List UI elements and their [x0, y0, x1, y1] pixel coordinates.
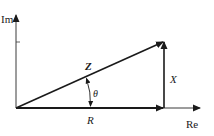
angle-label: θ [93, 88, 98, 99]
resistance-label: R [86, 114, 94, 126]
angle-arc [87, 79, 91, 107]
impedance-label: Z [84, 60, 92, 72]
impedance-vector [16, 42, 163, 108]
impedance-diagram: Im Re Z θ R X [0, 0, 214, 136]
imaginary-axis-label: Im [1, 13, 14, 25]
real-axis-label: Re [186, 118, 198, 130]
reactance-label: X [169, 73, 178, 85]
